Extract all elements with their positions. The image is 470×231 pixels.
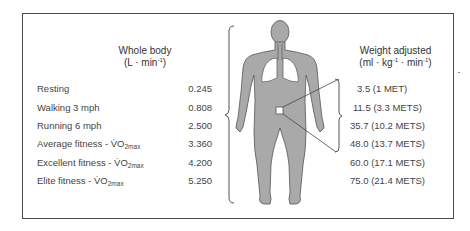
tissue-sample-box: [276, 107, 283, 114]
whole-body-brace: [225, 26, 234, 203]
stray-mark: [458, 72, 460, 73]
body-figure: [0, 0, 470, 231]
weight-adjusted-brace: [335, 79, 342, 152]
